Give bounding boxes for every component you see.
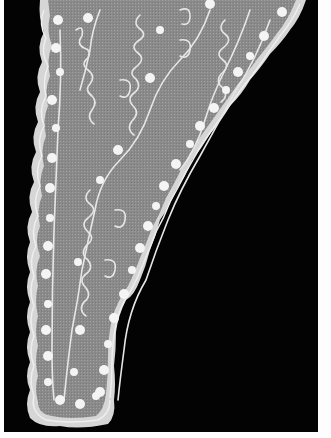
lace-lappet xyxy=(0,0,331,438)
